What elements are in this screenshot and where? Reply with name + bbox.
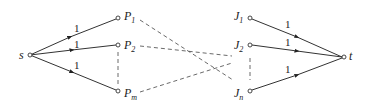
edge-weight: 1 xyxy=(74,59,80,71)
node-p2-label: P2 xyxy=(123,38,135,54)
node-pm-label: Pm xyxy=(123,86,137,102)
flow-network-diagram: s P1 P2 Pm J1 J2 Jn t 1 1 1 1 1 1 xyxy=(0,0,373,105)
sink-edges xyxy=(252,19,342,90)
dashed-connections xyxy=(118,20,250,92)
edge-weight: 1 xyxy=(285,18,291,30)
node-j2-label: J2 xyxy=(234,38,243,54)
node-jn-label: Jn xyxy=(234,86,243,102)
edge-weight: 1 xyxy=(74,38,80,50)
edge-weight: 1 xyxy=(285,63,291,75)
source-edges xyxy=(30,19,116,90)
edge-weight: 1 xyxy=(285,36,291,48)
node-j1-label: J1 xyxy=(234,9,243,25)
edge-weight: 1 xyxy=(74,22,80,34)
node-s-label: s xyxy=(19,48,24,62)
node-t-label: t xyxy=(349,49,353,63)
node-p1-label: P1 xyxy=(123,9,135,25)
